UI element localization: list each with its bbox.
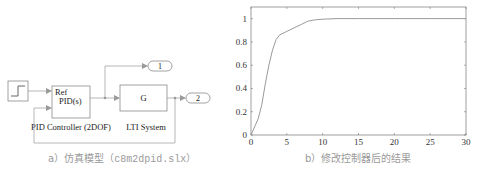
caption-a: a）仿真模型（c8m2dpid.slx） bbox=[48, 150, 196, 165]
outport-2-label: 2 bbox=[196, 94, 200, 103]
caption-a-prefix: a）仿真模型（ bbox=[48, 153, 114, 164]
y-tick-label: 0 bbox=[243, 130, 248, 140]
y-tick-label: 0.2 bbox=[236, 107, 247, 117]
outport-2[interactable]: 2 bbox=[186, 93, 210, 103]
outport-1-label: 1 bbox=[158, 62, 162, 71]
caption-a-filename: c8m2dpid.slx bbox=[114, 154, 186, 165]
x-tick-label: 15 bbox=[354, 137, 364, 147]
lti-block-label: G bbox=[140, 93, 146, 103]
x-tick-label: 20 bbox=[390, 137, 400, 147]
x-tick-label: 5 bbox=[285, 137, 290, 147]
x-tick-label: 0 bbox=[249, 137, 254, 147]
pid-controller-caption: PID Controller (2DOF) bbox=[31, 122, 111, 132]
y-tick-label: 0.6 bbox=[236, 60, 248, 70]
step-block[interactable] bbox=[8, 81, 28, 101]
pid-controller-block[interactable]: Ref PID(s) bbox=[52, 86, 90, 118]
chart-axes-frame bbox=[251, 7, 466, 135]
step-response-chart: 05101520253000.20.40.60.81 bbox=[225, 0, 477, 150]
x-tick-label: 25 bbox=[426, 137, 436, 147]
y-tick-label: 0.4 bbox=[236, 83, 248, 93]
simulink-diagram: Ref PID(s) PID Controller (2DOF) 1 G LTI… bbox=[0, 0, 235, 150]
caption-a-suffix: ） bbox=[186, 153, 196, 164]
x-tick-label: 30 bbox=[462, 137, 472, 147]
outport-1[interactable]: 1 bbox=[148, 61, 172, 71]
pid-block-label: PID(s) bbox=[59, 96, 82, 106]
lti-system-caption: LTI System bbox=[126, 122, 166, 132]
y-tick-label: 0.8 bbox=[236, 37, 248, 47]
x-tick-label: 10 bbox=[318, 137, 328, 147]
caption-b: b）修改控制器后的结果 bbox=[305, 150, 411, 165]
y-tick-label: 1 bbox=[243, 14, 248, 24]
lti-system-block[interactable]: G bbox=[120, 85, 167, 111]
